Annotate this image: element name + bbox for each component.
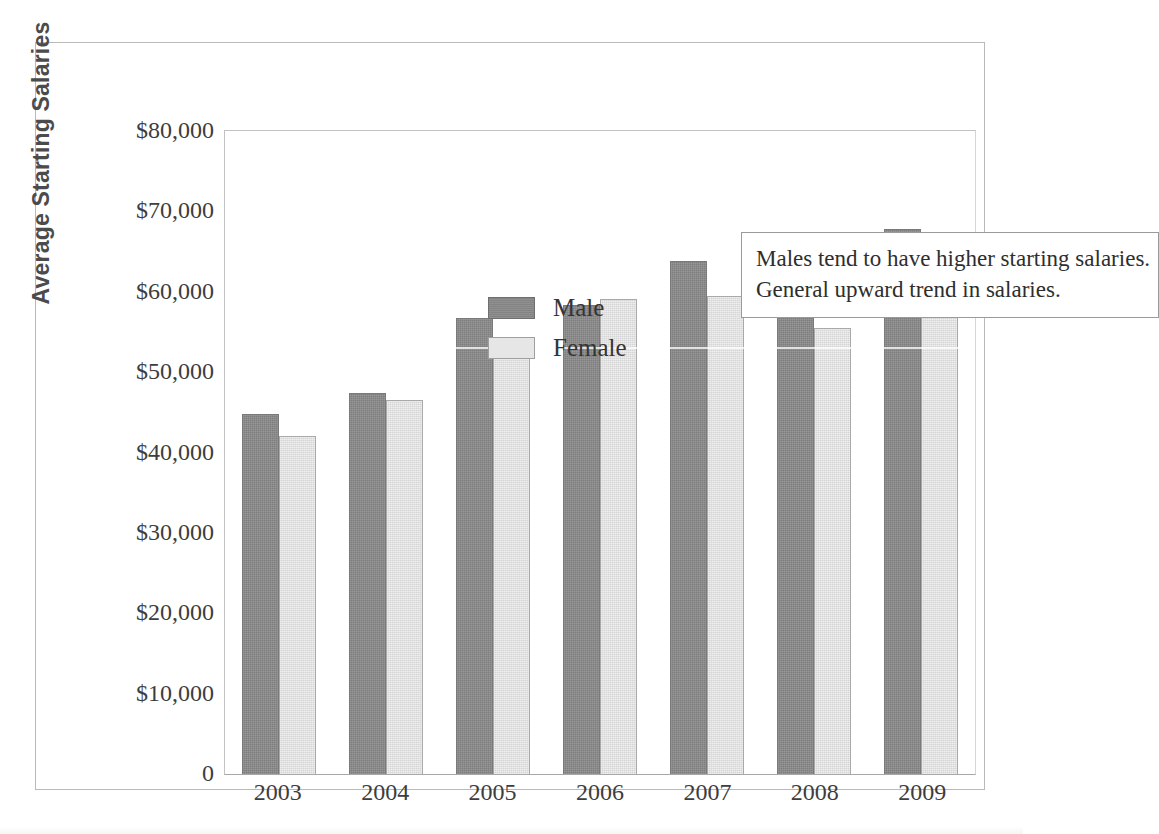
bar-group-2009 <box>868 131 975 774</box>
bar-female-2007 <box>707 296 744 774</box>
bar-female-2003 <box>279 436 316 774</box>
chart-legend: MaleFemale <box>488 288 668 368</box>
bar-female-2008 <box>814 328 851 774</box>
y-axis-title: Average Starting Salaries <box>28 0 55 343</box>
bar-female-2004 <box>386 400 423 774</box>
bar-male-2005 <box>456 318 493 774</box>
x-axis-tick-label: 2008 <box>761 779 868 819</box>
x-axis-tick-label: 2006 <box>546 779 653 819</box>
bars-layer <box>225 131 975 774</box>
bar-female-2009 <box>921 254 958 774</box>
bar-group-2008 <box>761 131 868 774</box>
legend-swatch-female-icon <box>488 337 535 359</box>
figure-frame: Average Starting Salaries $80,000$70,000… <box>35 42 985 790</box>
y-axis-tick-label: $40,000 <box>84 438 214 465</box>
bar-group-2006 <box>546 131 653 774</box>
x-axis-tick-label: 2003 <box>224 779 331 819</box>
y-axis-tick-label: $60,000 <box>84 277 214 304</box>
legend-label: Female <box>553 334 627 362</box>
x-axis-tick-label: 2009 <box>869 779 976 819</box>
bar-male-2008 <box>777 281 814 775</box>
bar-group-2003 <box>225 131 332 774</box>
bar-male-2007 <box>670 261 707 774</box>
bar-male-2003 <box>242 414 279 774</box>
y-axis-tick-label: $50,000 <box>84 358 214 385</box>
legend-label: Male <box>553 294 604 322</box>
x-axis-tick-label: 2007 <box>654 779 761 819</box>
x-axis-tick-label: 2005 <box>439 779 546 819</box>
bar-group-2005 <box>439 131 546 774</box>
y-axis-tick-label: $80,000 <box>84 117 214 144</box>
y-axis-tick-label: $70,000 <box>84 197 214 224</box>
bar-male-2004 <box>349 393 386 774</box>
legend-swatch-male-icon <box>488 297 535 319</box>
plot-area: MaleFemale Males tend to have higher sta… <box>224 130 976 775</box>
x-axis-tick-labels: 2003200420052006200720082009 <box>224 779 976 819</box>
bar-group-2004 <box>332 131 439 774</box>
bar-group-2007 <box>654 131 761 774</box>
y-axis-tick-label: 0 <box>84 760 214 787</box>
y-axis-tick-label: $30,000 <box>84 518 214 545</box>
annotation-line-2: General upward trend in salaries. <box>756 274 1144 305</box>
legend-item-female: Female <box>488 328 668 368</box>
bar-male-2006 <box>563 305 600 774</box>
legend-item-male: Male <box>488 288 668 328</box>
y-axis-tick-label: $10,000 <box>84 679 214 706</box>
annotation-line-1: Males tend to have higher starting salar… <box>756 243 1144 274</box>
y-axis-tick-label: $20,000 <box>84 599 214 626</box>
bar-female-2006 <box>600 299 637 774</box>
x-axis-tick-label: 2004 <box>331 779 438 819</box>
annotation-textbox: Males tend to have higher starting salar… <box>741 232 1159 318</box>
bar-female-2005 <box>493 340 530 774</box>
y-axis-tick-labels: $80,000$70,000$60,000$50,000$40,000$30,0… <box>74 130 214 773</box>
page-scan-edge <box>0 826 1023 834</box>
